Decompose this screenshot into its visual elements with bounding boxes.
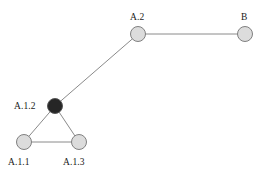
graph-svg — [0, 0, 275, 173]
node-label-b: B — [241, 13, 247, 23]
node-label-a-2: A.2 — [130, 13, 144, 23]
node-label-a-1-2: A.1.2 — [14, 102, 36, 112]
node-label-a-1-3: A.1.3 — [63, 158, 85, 168]
graph-node-a-2[interactable] — [131, 27, 146, 42]
node-label-a-1-1: A.1.1 — [8, 158, 30, 168]
graph-node-b[interactable] — [238, 27, 253, 42]
edges-layer — [24, 34, 245, 142]
diagram-canvas: A.1.1A.1.2A.1.3A.2B — [0, 0, 275, 173]
graph-node-a-1-1[interactable] — [17, 135, 32, 150]
graph-node-a-1-3[interactable] — [72, 135, 87, 150]
graph-edge — [55, 34, 138, 106]
graph-node-a-1-2[interactable] — [48, 99, 63, 114]
nodes-layer — [17, 27, 253, 150]
